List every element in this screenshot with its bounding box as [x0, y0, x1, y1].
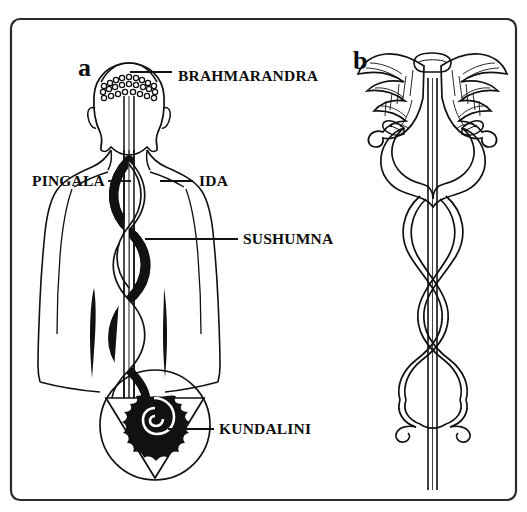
panel-letter-b: b — [353, 46, 367, 75]
label-ida: IDA — [199, 172, 229, 189]
label-brahmarandra: BRAHMARANDRA — [178, 67, 319, 84]
label-kundalini: KUNDALINI — [219, 420, 311, 437]
label-pingala: PINGALA — [32, 172, 105, 189]
panel-letter-a: a — [78, 53, 91, 82]
figure-illustration: a b BRAHMARANDRA PINGALA IDA SUSHUMNA KU… — [0, 0, 527, 512]
label-sushumna: SUSHUMNA — [243, 230, 334, 247]
sushumna-overlay — [124, 96, 134, 398]
figure-container: a b BRAHMARANDRA PINGALA IDA SUSHUMNA KU… — [0, 0, 527, 512]
